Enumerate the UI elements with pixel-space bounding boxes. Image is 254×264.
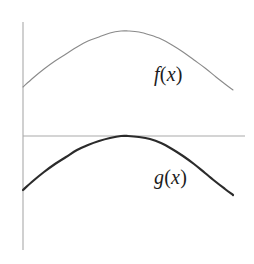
curve-label-f: f(x) (154, 64, 183, 84)
label-g-func: g (154, 166, 164, 188)
label-f-var: x (167, 63, 176, 85)
label-g-close-paren: ) (180, 166, 187, 188)
curve-g-of-x (23, 136, 233, 195)
label-f-open-paren: ( (160, 63, 167, 85)
curve-f-of-x (23, 31, 233, 90)
label-f-close-paren: ) (176, 63, 183, 85)
curve-label-g: g(x) (154, 167, 187, 187)
plot-canvas (0, 0, 254, 264)
function-graph-figure: f(x) g(x) (0, 0, 254, 264)
label-g-var: x (171, 166, 180, 188)
